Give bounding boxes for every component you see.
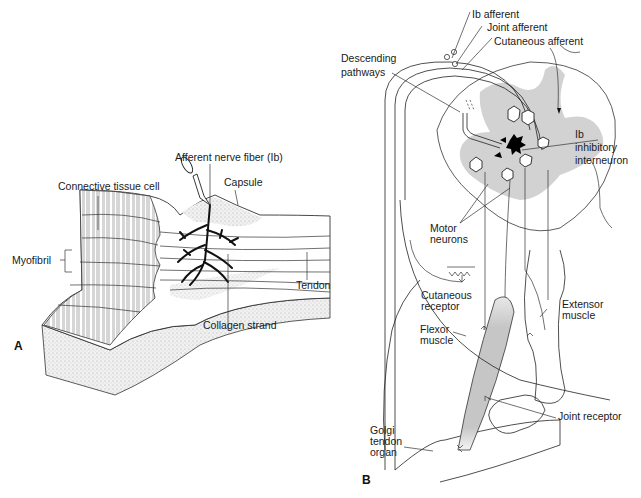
- label-collagen-strand: Collagen strand: [203, 319, 277, 331]
- label-cutaneous-receptor-2: receptor: [421, 300, 460, 312]
- panel-a: Afferent nerve fiber (Ib) Connective tis…: [12, 151, 331, 395]
- label-cutaneous-afferent: Cutaneous afferent: [494, 35, 583, 47]
- label-golgi-tendon-organ-3: organ: [370, 446, 397, 458]
- label-ib-interneuron-3: interneuron: [575, 154, 628, 166]
- label-capsule: Capsule: [224, 176, 263, 188]
- panel-letter-a: A: [14, 339, 23, 353]
- label-motor-neurons-2: neurons: [430, 233, 468, 245]
- label-afferent-nerve-fiber: Afferent nerve fiber (Ib): [175, 151, 283, 163]
- label-joint-afferent: Joint afferent: [487, 21, 548, 33]
- label-ib-afferent: Ib afferent: [472, 8, 519, 20]
- label-descending-pathways-2: pathways: [341, 66, 385, 78]
- label-tendon: Tendon: [296, 279, 331, 291]
- dorsal-root-ganglia: [444, 49, 457, 66]
- label-ib-interneuron-1: Ib: [575, 128, 584, 140]
- label-myofibril: Myofibril: [12, 254, 51, 266]
- panel-letter-b: B: [362, 473, 371, 487]
- label-extensor-muscle-2: muscle: [562, 309, 595, 321]
- label-descending-pathways-1: Descending: [341, 52, 397, 64]
- figure: Afferent nerve fiber (Ib) Connective tis…: [0, 0, 641, 498]
- label-flexor-muscle-2: muscle: [420, 334, 453, 346]
- panel-b: Ib afferent Joint afferent Cutaneous aff…: [341, 8, 628, 487]
- label-ib-interneuron-2: inhibitory: [575, 141, 618, 153]
- label-connective-tissue-cell: Connective tissue cell: [58, 180, 160, 192]
- label-joint-receptor: Joint receptor: [558, 410, 622, 422]
